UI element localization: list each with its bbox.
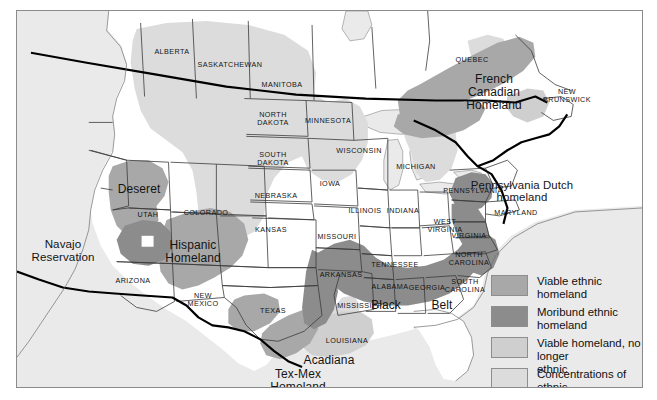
legend-item-1: Moribund ethnic homeland — [491, 306, 643, 332]
map-frame: ALBERTASASKATCHEWANMANITOBAQUEBECNEWBRUN… — [16, 10, 643, 388]
hopi-enclave — [142, 236, 154, 247]
ethnic-homelands-map-figure: ALBERTASASKATCHEWANMANITOBAQUEBECNEWBRUN… — [0, 0, 657, 400]
legend-swatch-islands — [491, 368, 528, 388]
legend-swatch-viable — [491, 275, 528, 296]
legend-swatch-no-longer-ethnic — [491, 337, 528, 358]
legend-label-viable: Viable ethnic homeland — [537, 275, 643, 301]
legend-label-islands: Concentrations of ethnicislands — [537, 368, 643, 388]
legend-item-0: Viable ethnic homeland — [491, 275, 643, 301]
legend-item-3: Concentrations of ethnicislands — [491, 368, 643, 388]
legend-label-moribund: Moribund ethnic homeland — [537, 306, 643, 332]
map-legend: Viable ethnic homeland Moribund ethnic h… — [491, 275, 643, 388]
legend-swatch-moribund — [491, 306, 528, 327]
